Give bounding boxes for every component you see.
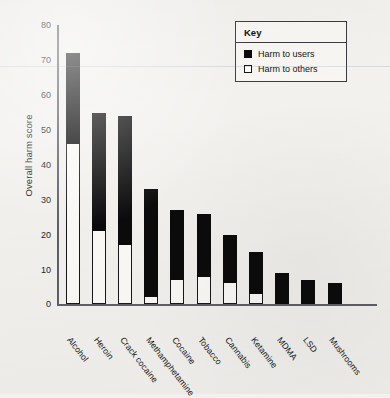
x-tick-label: Methamphetamine xyxy=(144,335,196,398)
bar-group xyxy=(301,280,315,304)
bar-segment-harm-to-others xyxy=(170,280,184,304)
legend-key-box: Key Harm to usersHarm to others xyxy=(235,21,347,82)
x-tick-label: MDMA xyxy=(275,335,299,362)
bar-group xyxy=(223,235,237,305)
legend-item: Harm to users xyxy=(244,49,338,59)
bar-group xyxy=(249,252,263,304)
bar-group xyxy=(66,53,80,304)
x-tick-label: Cocaine xyxy=(170,335,198,366)
legend-swatch-hollow-icon xyxy=(244,65,252,73)
bar-segment-harm-to-users xyxy=(118,116,132,245)
y-tick-label: 0 xyxy=(46,299,51,309)
y-tick-label: 30 xyxy=(41,195,51,205)
bar-group xyxy=(144,189,158,304)
legend-title: Key xyxy=(244,27,338,38)
bar-segment-harm-to-users xyxy=(328,283,342,304)
x-tick-label: Alcohol xyxy=(65,335,90,364)
bar-segment-harm-to-users xyxy=(275,273,289,304)
x-axis-line xyxy=(57,304,377,306)
bar-segment-harm-to-users xyxy=(249,252,263,294)
bar-segment-harm-to-others xyxy=(118,245,132,304)
bar-group xyxy=(197,214,211,305)
bar-segment-harm-to-others xyxy=(92,231,106,304)
y-tick-label: 80 xyxy=(41,20,51,30)
legend-items: Harm to usersHarm to others xyxy=(236,43,346,81)
y-tick-label: 50 xyxy=(41,125,51,135)
bar-segment-harm-to-users xyxy=(144,189,158,297)
x-tick-label: Tobacco xyxy=(196,335,224,367)
bar-segment-harm-to-others xyxy=(223,283,237,304)
y-tick-label: 70 xyxy=(41,55,51,65)
x-tick-label: Mushrooms xyxy=(327,335,363,377)
bar-segment-harm-to-others xyxy=(66,144,80,304)
y-axis-title: Overall harm score xyxy=(23,76,34,236)
bar-segment-harm-to-users xyxy=(92,113,106,232)
bar-segment-harm-to-users xyxy=(301,280,315,304)
bar-group xyxy=(92,113,106,305)
bar-group xyxy=(118,116,132,304)
legend-item-label: Harm to others xyxy=(258,64,318,74)
y-tick-label: 40 xyxy=(41,160,51,170)
bar-group xyxy=(328,283,342,304)
bar-segment-harm-to-others xyxy=(249,294,263,304)
y-tick-label: 20 xyxy=(41,230,51,240)
x-tick-label: Heroin xyxy=(92,335,116,361)
legend-item: Harm to others xyxy=(244,64,338,74)
bar-segment-harm-to-users xyxy=(223,235,237,284)
bar-group xyxy=(275,273,289,304)
legend-header: Key xyxy=(236,22,346,43)
bar-segment-harm-to-users xyxy=(66,53,80,144)
bar-group xyxy=(170,210,184,304)
bar-segment-harm-to-others xyxy=(144,297,158,304)
y-tick-label: 10 xyxy=(41,265,51,275)
bar-segment-harm-to-others xyxy=(197,277,211,305)
x-tick-label: LSD xyxy=(301,335,319,354)
legend-swatch-filled-icon xyxy=(244,50,252,58)
bar-segment-harm-to-users xyxy=(197,214,211,277)
y-tick-label: 60 xyxy=(41,90,51,100)
legend-item-label: Harm to users xyxy=(258,49,315,59)
bar-segment-harm-to-users xyxy=(170,210,184,280)
